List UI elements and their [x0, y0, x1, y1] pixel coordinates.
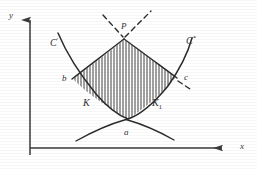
- contact-label-c: c: [184, 73, 188, 82]
- curve-right-label-text: C: [186, 35, 193, 46]
- curve-left-label: C': [50, 37, 58, 48]
- dashed-ray-upper-left: [103, 15, 123, 37]
- apex-label-p: P: [121, 22, 127, 31]
- lens-upper-boundary-group: [72, 39, 177, 79]
- lens-edge-b-to-p: [72, 39, 124, 79]
- curve-right-star-mark: *: [193, 34, 197, 42]
- curve-left-label-text: C: [50, 37, 57, 48]
- curve-right-label: C*: [186, 35, 196, 46]
- region-label-k1: K1: [152, 98, 162, 111]
- dashed-ray-upper-right: [125, 11, 151, 37]
- figure-canvas: y x C' C* P b c K K1 a: [0, 0, 257, 169]
- curve-left-prime-mark: ': [57, 36, 58, 44]
- diagram-svg: [0, 0, 257, 169]
- x-axis-label: x: [240, 142, 244, 151]
- contact-label-b: b: [62, 74, 67, 83]
- y-axis-label: y: [9, 11, 13, 20]
- region-label-k1-text: K: [152, 97, 159, 108]
- region-label-k: K: [83, 98, 90, 108]
- lower-curve-left-tail: [76, 120, 126, 142]
- crossing-label-a: a: [124, 128, 129, 137]
- lower-curve-right-tail: [126, 120, 174, 141]
- region-label-k1-subscript: 1: [159, 103, 162, 110]
- dashed-stub-near-c: [178, 81, 190, 89]
